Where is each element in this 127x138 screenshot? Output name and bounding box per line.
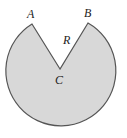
radius-label: R	[62, 33, 71, 47]
point-b-label: B	[84, 6, 92, 20]
point-a-label: A	[26, 7, 35, 21]
sector-diagram: A B R C	[0, 0, 127, 138]
point-c-label: C	[55, 73, 64, 87]
